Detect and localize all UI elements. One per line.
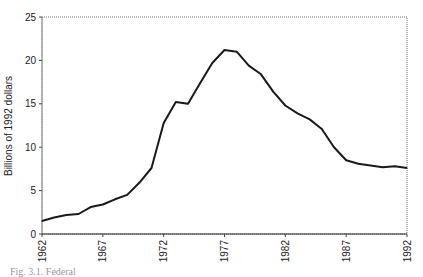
series-line <box>42 50 407 221</box>
data-point-1967 <box>102 204 103 205</box>
y-tick-label: 10 <box>25 142 37 153</box>
data-point-1985 <box>321 128 322 129</box>
data-point-1974 <box>187 103 188 104</box>
figure-caption: Fig. 3.1. Federal <box>10 266 76 277</box>
data-point-1973 <box>175 101 176 102</box>
data-point-1972 <box>163 122 164 123</box>
data-point-1991 <box>394 166 395 167</box>
data-point-1977 <box>224 49 225 50</box>
data-point-1980 <box>260 74 261 75</box>
data-point-1989 <box>370 165 371 166</box>
data-point-1969 <box>127 194 128 195</box>
x-tick-label: 1992 <box>402 240 413 263</box>
data-point-1968 <box>114 199 115 200</box>
data-point-1966 <box>90 206 91 207</box>
data-point-1986 <box>333 147 334 148</box>
y-tick-label: 0 <box>30 229 36 240</box>
y-tick-label: 25 <box>25 12 37 23</box>
x-tick-label: 1977 <box>219 240 230 263</box>
data-point-1987 <box>346 160 347 161</box>
y-tick-label: 5 <box>30 185 36 196</box>
y-axis-title: Billions of 1992 dollars <box>3 76 14 176</box>
x-tick-label: 1967 <box>97 240 108 263</box>
x-tick-label: 1962 <box>37 240 48 263</box>
data-point-1982 <box>285 105 286 106</box>
data-point-1990 <box>382 167 383 168</box>
x-tick-label: 1987 <box>341 240 352 263</box>
data-point-1992 <box>406 167 407 168</box>
data-point-1981 <box>273 91 274 92</box>
data-point-1988 <box>358 163 359 164</box>
data-point-1970 <box>139 182 140 183</box>
data-point-1979 <box>248 65 249 66</box>
data-point-1984 <box>309 119 310 120</box>
data-point-1978 <box>236 51 237 52</box>
data-point-1976 <box>212 62 213 63</box>
data-point-1975 <box>200 82 201 83</box>
x-tick-label: 1972 <box>158 240 169 263</box>
data-point-1962 <box>41 220 42 221</box>
y-tick-label: 15 <box>25 98 37 109</box>
data-point-1964 <box>66 214 67 215</box>
data-point-1963 <box>54 217 55 218</box>
y-tick-label: 20 <box>25 55 37 66</box>
data-point-1965 <box>78 213 79 214</box>
x-tick-label: 1982 <box>280 240 291 263</box>
data-point-1971 <box>151 167 152 168</box>
data-point-1983 <box>297 113 298 114</box>
